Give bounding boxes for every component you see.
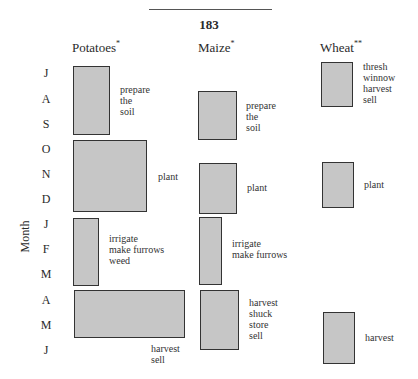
month-label: D <box>38 192 54 207</box>
potatoes-irrigate-label: irrigate make furrows weed <box>109 233 164 266</box>
maize-irrigate-label: irrigate make furrows <box>232 238 287 260</box>
month-label: J <box>38 343 54 358</box>
month-label: J <box>38 66 54 81</box>
month-label: M <box>38 267 54 282</box>
maize-plant-box <box>199 163 237 214</box>
month-label: S <box>38 117 54 132</box>
maize-harvest-label: harvest shuck store sell <box>249 297 278 341</box>
wheat-harvest-box <box>323 312 355 364</box>
footnote-mark: * <box>230 39 234 48</box>
month-axis-label: Month <box>18 214 33 260</box>
footnote-mark: ** <box>354 39 362 48</box>
month-label: J <box>38 217 54 232</box>
footnote-mark: * <box>116 39 120 48</box>
potatoes-prepare-box <box>73 66 110 135</box>
column-name: Wheat <box>320 40 354 55</box>
potatoes-prepare-label: prepare the soil <box>120 84 150 117</box>
potatoes-plant-box <box>73 140 147 212</box>
month-label: O <box>38 142 54 157</box>
wheat-plant-label: plant <box>364 179 384 190</box>
maize-prepare-label: prepare the soil <box>246 100 276 133</box>
column-name: Maize <box>198 40 230 55</box>
maize-plant-label: plant <box>247 182 267 193</box>
page-number: 183 <box>0 17 418 33</box>
column-header-potatoes: Potatoes* <box>72 40 120 56</box>
month-label: A <box>38 293 54 308</box>
month-label: F <box>38 242 54 257</box>
maize-harvest-box <box>200 290 239 350</box>
potatoes-irrigate-box <box>73 218 99 286</box>
wheat-plant-box <box>322 162 354 208</box>
wheat-thresh-box <box>321 62 353 107</box>
maize-prepare-box <box>198 91 237 140</box>
potatoes-harvest-box <box>74 290 185 338</box>
header-rule <box>149 9 272 10</box>
month-label: N <box>38 167 54 182</box>
month-label: M <box>38 318 54 333</box>
column-header-wheat: Wheat** <box>320 40 362 56</box>
month-label: A <box>38 92 54 107</box>
column-name: Potatoes <box>72 40 116 55</box>
wheat-harvest-label: harvest <box>365 332 394 343</box>
column-header-maize: Maize* <box>198 40 234 56</box>
wheat-thresh-label: thresh winnow harvest sell <box>363 61 395 105</box>
maize-irrigate-box <box>199 217 222 285</box>
potatoes-plant-label: plant <box>158 171 178 182</box>
potatoes-harvest-label: harvest sell <box>151 343 180 365</box>
